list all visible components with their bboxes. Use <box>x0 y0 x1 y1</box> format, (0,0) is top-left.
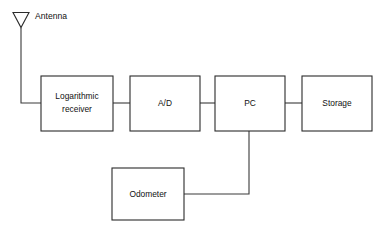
diagram-canvas: Logarithmic receiver A/D PC Storage Odom… <box>0 0 391 233</box>
block-ad-converter[interactable]: A/D <box>130 76 200 131</box>
antenna-triangle-icon <box>13 13 29 28</box>
block-diagram: Logarithmic receiver A/D PC Storage Odom… <box>0 0 391 233</box>
block-pc-label: PC <box>244 98 256 108</box>
block-ad-converter-label: A/D <box>158 98 172 108</box>
block-storage-label: Storage <box>322 98 352 108</box>
block-storage[interactable]: Storage <box>302 76 372 131</box>
block-logarithmic-receiver-label-line1: Logarithmic <box>55 91 98 101</box>
block-logarithmic-receiver-label-line2: receiver <box>62 104 92 114</box>
block-logarithmic-receiver[interactable]: Logarithmic receiver <box>41 76 113 131</box>
connector-antenna-to-receiver <box>21 28 41 104</box>
antenna-label: Antenna <box>35 11 67 21</box>
block-odometer[interactable]: Odometer <box>112 168 184 220</box>
connector-odometer-to-pc <box>184 131 249 194</box>
block-pc[interactable]: PC <box>215 76 285 131</box>
antenna-group <box>13 13 41 104</box>
block-odometer-label: Odometer <box>129 189 166 199</box>
